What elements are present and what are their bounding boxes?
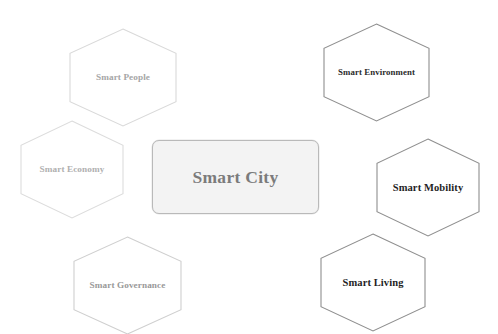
hexagon-label-smart-environment: Smart Environment (338, 68, 415, 78)
hexagon-label-smart-living: Smart Living (343, 277, 404, 289)
hexagon-label-smart-economy: Smart Economy (40, 164, 105, 174)
hexagon-smart-economy[interactable]: Smart Economy (21, 121, 123, 218)
hexagon-smart-living[interactable]: Smart Living (321, 234, 425, 331)
hexagon-label-smart-mobility: Smart Mobility (393, 182, 464, 194)
hexagon-smart-governance[interactable]: Smart Governance (74, 237, 181, 334)
hexagon-smart-people[interactable]: Smart People (70, 29, 176, 126)
hexagon-label-smart-governance: Smart Governance (90, 280, 166, 290)
center-node-label: Smart City (192, 167, 278, 188)
hexagon-smart-mobility[interactable]: Smart Mobility (377, 139, 479, 236)
smart-city-diagram: Smart People Smart Economy Smart Governa… (0, 0, 498, 334)
hexagon-label-smart-people: Smart People (96, 72, 150, 82)
hexagon-smart-environment[interactable]: Smart Environment (324, 24, 429, 121)
center-node-smart-city[interactable]: Smart City (152, 140, 319, 214)
